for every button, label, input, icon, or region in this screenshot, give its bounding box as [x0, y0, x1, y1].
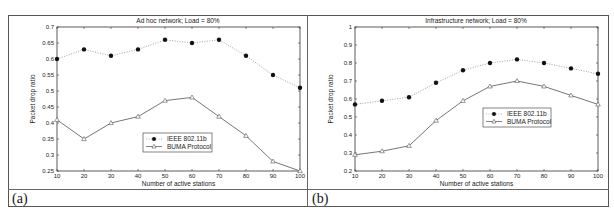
data-point-triangle	[244, 133, 249, 137]
x-tick-label: 60	[189, 173, 196, 179]
x-tick-label: 50	[460, 173, 467, 179]
x-tick-label: 100	[295, 173, 306, 179]
data-point-circle	[298, 86, 302, 90]
x-axis-label: Number of active stations	[142, 180, 216, 187]
x-tick-label: 70	[216, 173, 223, 179]
y-tick-label: 0.45	[42, 104, 54, 110]
series-buma-line	[355, 81, 598, 155]
data-point-circle	[515, 57, 519, 61]
legend-ieee-label: IEEE 802.11b	[167, 135, 207, 142]
x-tick-label: 40	[433, 173, 440, 179]
data-point-circle	[244, 54, 248, 58]
data-point-circle	[82, 47, 86, 51]
data-point-triangle	[82, 137, 87, 141]
x-tick-label: 90	[568, 173, 575, 179]
data-point-triangle	[190, 95, 195, 99]
x-tick-label: 80	[541, 173, 548, 179]
x-tick-label: 40	[135, 173, 142, 179]
data-point-circle	[407, 95, 411, 99]
chart-title: Ad hoc network; Load = 80%	[136, 17, 220, 24]
chart-infrastructure: Infrastructure network; Load = 80%102030…	[327, 17, 604, 187]
y-tick-label: 0.8	[344, 60, 353, 66]
charts-canvas: Ad hoc network; Load = 80%10203040506070…	[0, 0, 614, 212]
x-tick-label: 90	[270, 173, 277, 179]
y-tick-label: 0.7	[46, 24, 55, 30]
data-point-circle	[380, 99, 384, 103]
x-tick-label: 10	[54, 173, 61, 179]
data-point-circle	[55, 57, 59, 61]
data-point-circle	[109, 54, 113, 58]
series-ieee-line	[355, 59, 598, 104]
y-axis-label: Packet drop ratio	[29, 74, 37, 124]
y-tick-label: 0.55	[42, 72, 54, 78]
y-tick-label: 0.35	[42, 136, 54, 142]
chart-title: Infrastructure network; Load = 80%	[425, 17, 527, 24]
x-tick-label: 20	[81, 173, 88, 179]
series-ieee-line	[57, 40, 300, 88]
data-point-triangle	[136, 114, 141, 118]
data-point-triangle	[515, 79, 520, 83]
data-point-triangle	[55, 117, 60, 121]
y-tick-label: 0.5	[344, 114, 353, 120]
y-tick-label: 0.5	[46, 88, 55, 94]
y-tick-label: 0.9	[344, 42, 353, 48]
x-tick-label: 30	[108, 173, 115, 179]
data-point-circle	[271, 73, 275, 77]
x-tick-label: 60	[487, 173, 494, 179]
x-tick-label: 20	[379, 173, 386, 179]
data-point-circle	[190, 41, 194, 45]
data-point-triangle	[434, 118, 439, 122]
data-point-circle	[461, 68, 465, 72]
y-axis-label: Packet drop ratio	[327, 74, 335, 124]
y-tick-label: 0.7	[344, 78, 353, 84]
chart-ad-hoc: Ad hoc network; Load = 80%10203040506070…	[29, 17, 306, 187]
data-point-circle	[569, 66, 573, 70]
x-tick-label: 70	[514, 173, 521, 179]
x-tick-label: 10	[352, 173, 359, 179]
data-point-circle	[596, 72, 600, 76]
data-point-circle	[353, 102, 357, 106]
y-tick-label: 0.2	[344, 168, 353, 174]
legend-ieee-label: IEEE 802.11b	[507, 110, 547, 117]
y-tick-label: 0.4	[344, 132, 353, 138]
legend-buma-label: BUMA Protocol	[167, 143, 212, 150]
legend-circle-icon	[152, 137, 156, 141]
legend-buma-label: BUMA Protocol	[507, 118, 552, 125]
y-tick-label: 0.4	[46, 120, 55, 126]
data-point-circle	[488, 61, 492, 65]
data-point-circle	[163, 38, 167, 42]
data-point-circle	[434, 81, 438, 85]
x-tick-label: 50	[162, 173, 169, 179]
y-tick-label: 0.6	[344, 96, 353, 102]
y-tick-label: 1	[349, 24, 353, 30]
x-axis-label: Number of active stations	[440, 180, 514, 187]
legend-circle-icon	[492, 112, 496, 116]
y-tick-label: 0.25	[42, 168, 54, 174]
data-point-circle	[136, 47, 140, 51]
x-tick-label: 100	[593, 173, 604, 179]
y-tick-label: 0.3	[344, 150, 353, 156]
data-point-circle	[542, 61, 546, 65]
y-tick-label: 0.65	[42, 40, 54, 46]
y-tick-label: 0.6	[46, 56, 55, 62]
data-point-triangle	[217, 114, 222, 118]
y-tick-label: 0.3	[46, 152, 55, 158]
x-tick-label: 80	[243, 173, 250, 179]
x-tick-label: 30	[406, 173, 413, 179]
data-point-circle	[217, 38, 221, 42]
